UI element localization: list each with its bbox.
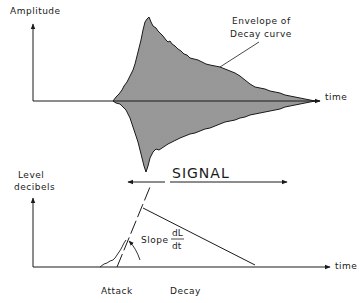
envelope-annotation-line2: Decay curve bbox=[230, 29, 292, 39]
level-plot: Level decibels time Slope dL dt Attack D… bbox=[14, 170, 357, 296]
signal-label: SIGNAL bbox=[172, 165, 230, 181]
bottom-time-axis-label: time bbox=[335, 261, 357, 271]
slope-indicator-arrow bbox=[129, 241, 140, 260]
attack-label: Attack bbox=[101, 286, 133, 296]
decay-label: Decay bbox=[170, 286, 201, 296]
attack-curve bbox=[100, 240, 126, 267]
envelope-annotation-line1: Envelope of bbox=[232, 16, 291, 26]
signal-span: SIGNAL bbox=[128, 165, 287, 182]
slope-label: Slope bbox=[141, 235, 168, 245]
annotation-leader-line bbox=[220, 42, 259, 67]
diagram-canvas: Amplitude time Envelope of Decay curve S… bbox=[0, 0, 363, 303]
amplitude-axis-label: Amplitude bbox=[10, 6, 61, 16]
level-axis-label-line1: Level bbox=[18, 170, 44, 180]
level-axis-label-line2: decibels bbox=[14, 182, 55, 192]
attack-slope-line bbox=[117, 187, 150, 267]
slope-denominator: dt bbox=[172, 241, 182, 251]
amplitude-plot: Amplitude time Envelope of Decay curve bbox=[10, 6, 347, 180]
slope-numerator: dL bbox=[172, 228, 183, 238]
top-time-axis-label: time bbox=[325, 92, 347, 102]
